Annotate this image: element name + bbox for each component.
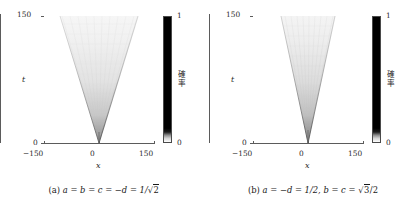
- colorbar-label-a: 確率: [177, 70, 185, 88]
- x-axis-label-b: x: [305, 161, 310, 170]
- y-tick-label-top-b: 150: [226, 11, 240, 18]
- y-tick-label-top-a: 150: [17, 11, 31, 18]
- y-axis-label-b: t: [231, 75, 234, 84]
- x-tick-right-a: [154, 141, 155, 144]
- x-tick-mid-a: [99, 141, 100, 144]
- caption-b: (b) a = −d = 1/2, b = c = √3/2: [209, 185, 417, 195]
- x-tick-label-left-a: −150: [23, 150, 43, 157]
- x-tick-label-right-a: 150: [139, 150, 153, 157]
- y-tick-label-bottom-a: 0: [33, 139, 38, 146]
- colorbar-label-b: 確率: [386, 70, 394, 88]
- x-tick-label-mid-a: 0: [90, 150, 95, 157]
- x-tick-right-b: [363, 141, 364, 144]
- colorbar-tick-top-a: 1: [177, 12, 182, 19]
- colorbar-tick-bottom-b: 0: [386, 139, 391, 146]
- heatmap-canvas-b: [253, 16, 363, 143]
- colorbar-tick-bottom-a: 0: [177, 139, 182, 146]
- panel-a: 150 0 −150 0 150 t x 1 0 確率 (a) a = b = …: [0, 0, 208, 207]
- panel-b: 150 0 −150 0 150 t x 1 0 確率 (b) a = −d =…: [209, 0, 417, 207]
- x-tick-label-mid-b: 0: [299, 150, 304, 157]
- y-tick-top-b: [250, 16, 253, 17]
- y-axis-line-a: [0, 14, 1, 143]
- x-axis-label-a: x: [96, 161, 101, 170]
- caption-a-sqrt: √2: [148, 185, 160, 195]
- x-tick-left-b: [253, 141, 254, 144]
- colorbar-tick-top-b: 1: [386, 12, 391, 19]
- figure-two-panel-quantum-walk: 150 0 −150 0 150 t x 1 0 確率 (a) a = b = …: [0, 0, 417, 207]
- heatmap-canvas-a: [44, 16, 154, 143]
- y-axis-label-a: t: [22, 75, 25, 84]
- caption-a-lhs: a = b = c = −d = 1/: [63, 185, 148, 195]
- colorbar-gradient-b: [373, 17, 380, 142]
- y-tick-label-bottom-b: 0: [242, 139, 247, 146]
- colorbar-a: [163, 16, 172, 143]
- caption-b-sqrt: √3: [358, 185, 370, 195]
- caption-b-lhs: a = −d = 1/2, b = c =: [263, 185, 359, 195]
- caption-a-radicand: 2: [153, 184, 159, 195]
- caption-b-label: (b): [248, 185, 260, 195]
- density-plot-a: [44, 16, 154, 143]
- caption-a: (a) a = b = c = −d = 1/√2: [0, 185, 208, 195]
- colorbar-gradient-a: [164, 17, 171, 142]
- y-tick-top-a: [41, 16, 44, 17]
- plot-area-b: [253, 16, 363, 143]
- x-tick-label-right-b: 150: [348, 150, 362, 157]
- x-tick-left-a: [44, 141, 45, 144]
- y-axis-line-b: [209, 14, 210, 143]
- plot-area-a: [44, 16, 154, 143]
- density-plot-b: [253, 16, 363, 143]
- colorbar-b: [372, 16, 381, 143]
- x-tick-mid-b: [308, 141, 309, 144]
- caption-a-label: (a): [49, 185, 61, 195]
- caption-b-denominator: /2: [370, 185, 378, 195]
- x-tick-label-left-b: −150: [232, 150, 252, 157]
